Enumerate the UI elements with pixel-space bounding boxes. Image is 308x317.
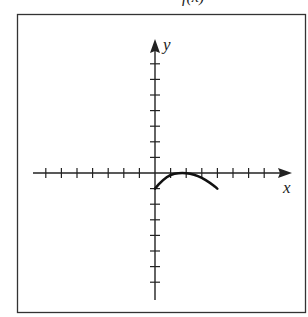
y-axis [150,39,160,300]
coordinate-plane: y x [0,0,308,317]
y-axis-label: y [161,35,171,54]
x-axis [33,168,292,178]
chart-frame [18,15,306,313]
y-axis-arrow-icon [150,39,160,53]
x-axis-label: x [282,178,291,197]
x-axis-arrow-icon [278,168,292,178]
